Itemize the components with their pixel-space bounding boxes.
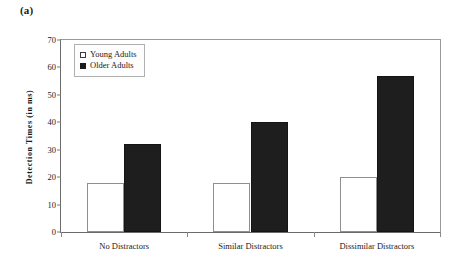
x-tick-mark [61,232,62,237]
y-tick-mark [57,177,61,178]
y-tick-mark [57,149,61,150]
bar-older-adults [124,144,161,232]
legend-swatch-filled-square-icon [80,63,86,69]
legend-item-young-adults: Young Adults [80,49,137,60]
legend-item-older-adults: Older Adults [80,60,137,71]
x-tick-mark [440,232,441,237]
legend: Young Adults Older Adults [74,44,145,77]
y-tick-mark [57,94,61,95]
y-tick-mark [57,122,61,123]
y-axis-title: Detection Times (in ms) [25,90,34,185]
y-tick-mark [57,40,61,41]
bar-older-adults [251,122,288,232]
x-tick-mark [187,232,188,237]
bar-young-adults [340,177,377,232]
x-tick-label: No Distractors [99,241,149,251]
x-tick-label: Similar Distractors [218,241,282,251]
plot-area: Detection Times (in ms) 010203040506070 … [60,39,441,233]
bar-young-adults [213,183,250,232]
bar-young-adults [87,183,124,232]
legend-swatch-open-square-icon [80,52,86,58]
x-tick-label: Dissimilar Distractors [339,241,414,251]
figure-panel: (a) Detection Times (in ms) 010203040506… [0,0,465,270]
y-tick-mark [57,67,61,68]
legend-label: Older Adults [90,60,134,71]
bar-older-adults [377,76,414,232]
legend-label: Young Adults [90,49,137,60]
y-tick-mark [57,204,61,205]
x-tick-mark [314,232,315,237]
panel-label: (a) [20,4,33,16]
